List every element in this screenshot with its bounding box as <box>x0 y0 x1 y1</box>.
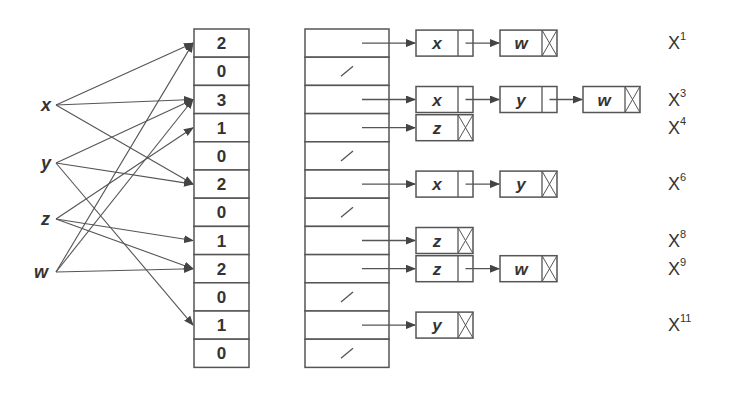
row-label: X6 <box>668 171 686 194</box>
svg-text:w: w <box>514 260 529 279</box>
arrow-z-to-9 <box>56 219 193 269</box>
count-cell: 0 <box>194 57 249 85</box>
bucket-cell <box>305 283 389 311</box>
svg-text:0: 0 <box>217 288 226 307</box>
bucket-cell <box>305 29 415 57</box>
svg-text:x: x <box>431 91 443 110</box>
arrow-x-to-1 <box>56 43 193 105</box>
list-node-w: w <box>500 256 557 282</box>
svg-text:0: 0 <box>217 62 226 81</box>
row-label: X11 <box>668 312 691 335</box>
list-node-y: y <box>416 312 473 338</box>
list-node-x: x <box>416 30 499 56</box>
svg-text:y: y <box>431 316 443 335</box>
row-label: X3 <box>668 87 686 110</box>
row-label: X1 <box>668 30 686 53</box>
svg-text:0: 0 <box>217 147 226 166</box>
variable-z: z <box>40 209 50 229</box>
svg-text:1: 1 <box>217 119 226 138</box>
svg-text:0: 0 <box>217 344 226 363</box>
arrow-w-to-9 <box>56 269 193 272</box>
bucket-cell <box>305 339 389 367</box>
variable-w: w <box>34 262 49 282</box>
count-array: 203102012010 <box>194 29 249 367</box>
arrow-x-to-3 <box>56 100 193 106</box>
svg-text:x: x <box>431 34 443 53</box>
variable-arrows <box>56 43 193 325</box>
svg-text:2: 2 <box>217 175 226 194</box>
svg-text:x: x <box>431 175 443 194</box>
bucket-cell <box>305 170 415 198</box>
count-cell: 0 <box>194 283 249 311</box>
list-node-z: z <box>416 256 499 282</box>
bucket-cell <box>305 226 415 254</box>
bucket-array <box>305 29 415 367</box>
arrow-x-to-6 <box>56 105 193 184</box>
row-label: X4 <box>668 115 686 138</box>
count-cell: 0 <box>194 142 249 170</box>
count-cell: 1 <box>194 311 249 339</box>
bucket-cell <box>305 198 389 226</box>
list-node-y: y <box>500 87 582 113</box>
bucket-cell <box>305 255 415 283</box>
bucket-cell <box>305 311 415 339</box>
svg-text:0: 0 <box>217 203 226 222</box>
count-cell: 1 <box>194 114 249 142</box>
svg-text:1: 1 <box>217 232 226 251</box>
svg-text:2: 2 <box>217 260 226 279</box>
svg-text:w: w <box>597 91 612 110</box>
list-node-z: z <box>416 228 473 254</box>
list-node-y: y <box>500 171 557 197</box>
count-cell: 2 <box>194 255 249 283</box>
list-node-x: x <box>416 171 499 197</box>
row-label: X9 <box>668 256 686 279</box>
svg-text:1: 1 <box>217 316 226 335</box>
arrow-z-to-4 <box>56 128 193 219</box>
list-node-w: w <box>583 87 640 113</box>
list-node-w: w <box>500 30 557 56</box>
bucket-cell <box>305 142 389 170</box>
row-label: X8 <box>668 228 686 251</box>
svg-text:y: y <box>515 91 527 110</box>
arrow-y-to-3 <box>56 100 193 164</box>
variable-labels: xyzw <box>34 95 52 282</box>
svg-text:2: 2 <box>217 34 226 53</box>
bucket-cell <box>305 114 415 142</box>
list-node-z: z <box>416 115 473 141</box>
arrow-w-to-3 <box>56 100 193 273</box>
svg-text:w: w <box>514 34 529 53</box>
svg-text:z: z <box>432 232 442 251</box>
svg-text:3: 3 <box>217 91 226 110</box>
count-cell: 0 <box>194 198 249 226</box>
variable-y: y <box>40 153 52 173</box>
count-cell: 2 <box>194 170 249 198</box>
variable-x: x <box>40 95 52 115</box>
svg-text:y: y <box>515 175 527 194</box>
svg-text:z: z <box>432 260 442 279</box>
count-cell: 3 <box>194 85 249 113</box>
list-node-x: x <box>416 87 499 113</box>
linked-lists: xwxywzxyzzwy <box>416 30 640 338</box>
bucket-cell <box>305 57 389 85</box>
count-cell: 2 <box>194 29 249 57</box>
row-labels: X1X3X4X6X8X9X11 <box>668 30 691 335</box>
svg-text:z: z <box>432 119 442 138</box>
count-cell: 1 <box>194 226 249 254</box>
count-cell: 0 <box>194 339 249 367</box>
sparse-matrix-diagram: xyzw 203102012010 xwxywzxyzzwy X1X3X4X6X… <box>0 0 732 393</box>
bucket-cell <box>305 85 415 113</box>
